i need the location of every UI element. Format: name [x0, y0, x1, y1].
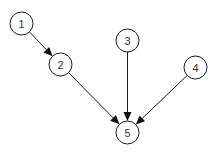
- node-3: 3: [116, 29, 139, 52]
- node-label: 4: [192, 62, 198, 74]
- node-4: 4: [184, 56, 207, 79]
- arrowhead-icon: [124, 112, 132, 121]
- edges-layer: [29, 32, 187, 125]
- edge-1-to-2: [29, 32, 52, 56]
- edge-4-to-5: [136, 75, 187, 124]
- node-1: 1: [10, 12, 33, 35]
- edge-line: [142, 75, 187, 118]
- node-label: 1: [18, 18, 24, 30]
- edge-2-to-5: [69, 73, 120, 125]
- node-label: 5: [124, 127, 130, 139]
- nodes-layer: 12345: [10, 12, 207, 144]
- node-5: 5: [116, 121, 139, 144]
- node-label: 2: [57, 59, 63, 71]
- edge-line: [29, 32, 46, 50]
- edge-line: [69, 73, 114, 118]
- node-2: 2: [49, 53, 72, 76]
- dependency-graph: 12345: [0, 0, 223, 155]
- edge-3-to-5: [124, 52, 132, 121]
- node-label: 3: [124, 35, 130, 47]
